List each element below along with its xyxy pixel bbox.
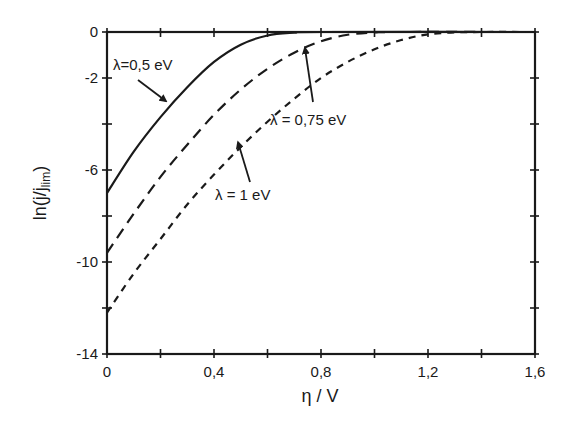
y-tick-label: -10: [76, 253, 98, 270]
axis-ticks: 00,40,81,21,60-2-6-10-14: [76, 23, 545, 380]
y-tick-label: -2: [85, 69, 98, 86]
x-axis-title: η / V: [301, 386, 338, 406]
annotation-label: λ = 1 eV: [215, 186, 270, 203]
x-tick-label: 1,2: [418, 363, 439, 380]
annotation-label: λ=0,5 eV: [113, 56, 173, 73]
chart: 00,40,81,21,60-2-6-10-14 λ=0,5 eVλ = 0,7…: [0, 0, 573, 428]
y-tick-label: -6: [85, 161, 98, 178]
x-tick-label: 0,4: [204, 363, 225, 380]
plot-frame: [107, 32, 535, 354]
y-tick-label: -14: [76, 345, 98, 362]
curve-short-dash: [107, 32, 535, 313]
annotations: λ=0,5 eVλ = 0,75 eVλ = 1 eV: [113, 48, 346, 203]
annotation-arrow: [138, 80, 166, 101]
x-tick-label: 0: [103, 363, 111, 380]
plot-border: [107, 32, 535, 354]
annotation-arrow: [305, 48, 313, 102]
annotation-arrow: [238, 142, 250, 182]
y-tick-label: 0: [90, 23, 98, 40]
x-tick-label: 1,6: [525, 363, 546, 380]
annotation-label: λ = 0,75 eV: [270, 111, 346, 128]
y-axis-title: ln(j/jlim): [30, 166, 53, 220]
x-tick-label: 0,8: [311, 363, 332, 380]
curves: [107, 32, 535, 313]
